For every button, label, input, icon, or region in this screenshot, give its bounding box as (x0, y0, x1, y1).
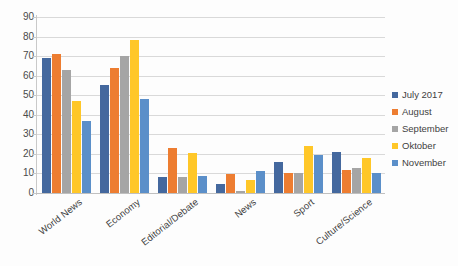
legend-item[interactable]: September (392, 120, 458, 137)
bar (342, 170, 351, 193)
y-axis-tick-label: 70 (6, 51, 34, 61)
legend-item[interactable]: August (392, 103, 458, 120)
bar (352, 168, 361, 193)
bar-group (211, 17, 269, 193)
bar (52, 54, 61, 193)
bar (314, 155, 323, 193)
bar (216, 184, 225, 193)
bar (158, 177, 167, 193)
chart-legend: July 2017AugustSeptemberOktoberNovember (392, 86, 458, 171)
y-axis-tick-mark (32, 37, 36, 38)
bar (362, 158, 371, 193)
bar (168, 148, 177, 193)
bar-group-bars (153, 17, 211, 193)
y-axis-tick-mark (32, 56, 36, 57)
legend-label: November (402, 158, 446, 168)
x-axis-category-label: Economy (104, 197, 142, 230)
bar-group-bars (37, 17, 95, 193)
bar (236, 191, 245, 193)
bar (226, 174, 235, 193)
bar (304, 146, 313, 193)
x-axis-label-wrap: Sport (292, 197, 316, 219)
bar (332, 152, 341, 193)
legend-swatch-icon (392, 160, 398, 166)
y-axis-tick-label: 0 (6, 188, 34, 198)
legend-label: September (402, 124, 448, 134)
x-axis-category-label: World News (37, 197, 84, 237)
bar (130, 40, 139, 193)
bar (82, 121, 91, 193)
bar (100, 85, 109, 193)
y-axis-tick-mark (32, 173, 36, 174)
x-axis-category-label: News (233, 197, 258, 220)
bar (372, 173, 381, 193)
x-axis-category-label: Culture/Science (314, 197, 374, 247)
y-axis-tick-label: 60 (6, 71, 34, 81)
bar-group-bars (95, 17, 153, 193)
y-axis-tick-label: 20 (6, 149, 34, 159)
bar (284, 173, 293, 193)
chart-caption (0, 258, 458, 266)
y-axis-tick-label: 30 (6, 129, 34, 139)
y-axis-tick-mark (32, 193, 36, 194)
legend-label: August (402, 107, 432, 117)
y-axis-tick-label: 80 (6, 32, 34, 42)
x-axis-category-label: Editorial/Debate (139, 197, 200, 247)
bar-group (269, 17, 327, 193)
plot-area (37, 17, 385, 193)
y-axis-tick-mark (32, 17, 36, 18)
legend-item[interactable]: July 2017 (392, 86, 458, 103)
legend-swatch-icon (392, 143, 398, 149)
bar (72, 101, 81, 193)
y-axis-tick-mark (32, 154, 36, 155)
bar (62, 70, 71, 193)
x-axis-label-wrap: Culture/Science (314, 197, 374, 247)
legend-swatch-icon (392, 92, 398, 98)
bar-chart: 9080706050403020100 World NewsEconomyEdi… (0, 0, 458, 266)
legend-label: July 2017 (402, 90, 443, 100)
legend-swatch-icon (392, 126, 398, 132)
bar-group (153, 17, 211, 193)
bar-group (37, 17, 95, 193)
bar (178, 177, 187, 193)
bar (294, 173, 303, 193)
bar (42, 58, 51, 193)
x-axis-label-wrap: World News (37, 197, 84, 237)
y-axis-tick-label: 10 (6, 168, 34, 178)
x-axis-label-wrap: Editorial/Debate (139, 197, 200, 247)
y-axis-tick-mark (32, 115, 36, 116)
bar (110, 68, 119, 193)
x-axis-label-wrap: Economy (104, 197, 142, 230)
legend-label: Oktober (402, 141, 436, 151)
x-axis-category-label: Sport (292, 197, 316, 219)
legend-swatch-icon (392, 109, 398, 115)
bar-group-bars (269, 17, 327, 193)
bar-group (95, 17, 153, 193)
bar (120, 56, 129, 193)
bar (188, 153, 197, 193)
y-axis-tick-mark (32, 134, 36, 135)
bar (246, 180, 255, 193)
bar (274, 162, 283, 193)
legend-item[interactable]: November (392, 154, 458, 171)
y-axis-tick-label: 90 (6, 12, 34, 22)
y-axis-tick-mark (32, 76, 36, 77)
bar (140, 99, 149, 193)
bar (256, 171, 265, 193)
bar (198, 176, 207, 193)
legend-item[interactable]: Oktober (392, 137, 458, 154)
gridline (37, 193, 385, 194)
y-axis-tick-labels: 9080706050403020100 (0, 17, 34, 193)
bar-group-bars (211, 17, 269, 193)
y-axis-tick-mark (32, 95, 36, 96)
y-axis-tick-label: 50 (6, 90, 34, 100)
bar-group-bars (327, 17, 385, 193)
x-axis-label-wrap: News (233, 197, 258, 220)
bar-group (327, 17, 385, 193)
y-axis-tick-label: 40 (6, 110, 34, 120)
